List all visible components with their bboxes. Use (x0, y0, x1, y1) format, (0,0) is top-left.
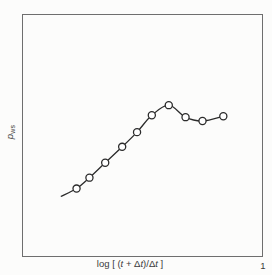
y-axis-label: pws (4, 112, 18, 152)
data-point-marker (199, 117, 206, 124)
plot-area (22, 14, 263, 257)
data-point-marker (182, 114, 189, 121)
label-text: + Δ (123, 258, 140, 269)
data-curve-svg (23, 15, 262, 256)
data-point-marker (102, 159, 109, 166)
label-text: p (4, 134, 15, 139)
label-text: log [ ( (97, 258, 121, 269)
data-point-marker (148, 112, 155, 119)
label-text: )/Δ (143, 258, 155, 269)
data-point-marker (119, 143, 126, 150)
data-point-marker (73, 185, 80, 192)
x-axis-tick-label-1: 1 (256, 260, 270, 271)
figure-canvas: pws log [ (t + Δt)/Δt ] 1 (0, 0, 272, 275)
label-text: ] (158, 258, 163, 269)
x-axis-label: log [ (t + Δt)/Δt ] (50, 258, 210, 269)
data-point-marker (86, 174, 93, 181)
data-point-marker (165, 102, 172, 109)
label-subscript: ws (9, 125, 16, 134)
data-point-marker (133, 129, 140, 136)
data-point-marker (220, 113, 227, 120)
